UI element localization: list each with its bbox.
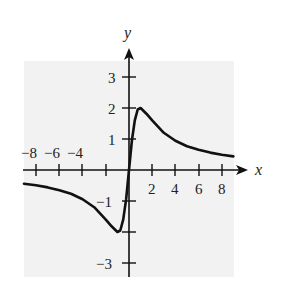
x-tick-label: −8 (21, 145, 37, 161)
x-tick-label: 8 (218, 181, 226, 197)
x-tick-label: 2 (148, 181, 156, 197)
y-axis-label: y (122, 24, 132, 42)
y-tick-label: −3 (96, 256, 112, 272)
x-tick-label: 6 (195, 181, 203, 197)
x-tick-label: −4 (67, 145, 83, 161)
y-tick-label: 1 (108, 132, 116, 148)
y-tick-label: 2 (108, 101, 116, 117)
y-tick-label: 3 (108, 70, 116, 86)
y-tick-label: −1 (96, 194, 112, 210)
function-graph: y x −8 −6 −4 2 4 6 8 3 2 1 −1 −3 (0, 0, 282, 300)
x-tick-label: −6 (44, 145, 60, 161)
x-axis-label: x (254, 161, 262, 178)
x-tick-label: 4 (171, 181, 179, 197)
